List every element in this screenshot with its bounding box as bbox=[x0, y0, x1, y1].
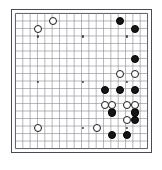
black-stone-r9[interactable] bbox=[131, 86, 139, 94]
black-stone-r5[interactable] bbox=[131, 116, 139, 124]
white-stone-d17[interactable] bbox=[34, 25, 42, 33]
white-stone-r7[interactable] bbox=[131, 101, 139, 109]
black-stone-n9[interactable] bbox=[101, 86, 109, 94]
white-stone-m4[interactable] bbox=[93, 124, 101, 132]
black-stone-r13[interactable] bbox=[131, 55, 139, 63]
white-stone-q5[interactable] bbox=[123, 116, 131, 124]
go-board[interactable] bbox=[11, 9, 152, 153]
hoshi-star-point bbox=[81, 35, 83, 37]
go-board-container bbox=[0, 0, 162, 170]
white-stone-f18[interactable] bbox=[49, 17, 57, 25]
black-stone-r17[interactable] bbox=[131, 25, 139, 33]
hoshi-star-point bbox=[37, 81, 39, 83]
black-stone-o3[interactable] bbox=[108, 131, 116, 139]
hoshi-star-point bbox=[81, 81, 83, 83]
white-stone-r11[interactable] bbox=[131, 70, 139, 78]
hoshi-star-point bbox=[37, 35, 39, 37]
hoshi-star-point bbox=[126, 81, 128, 83]
black-stone-p9[interactable] bbox=[116, 86, 124, 94]
black-stone-q3[interactable] bbox=[123, 131, 131, 139]
white-stone-o7[interactable] bbox=[108, 101, 116, 109]
go-stones-layer bbox=[12, 10, 151, 152]
white-stone-d4[interactable] bbox=[34, 124, 42, 132]
hoshi-star-point bbox=[81, 127, 83, 129]
black-stone-o6[interactable] bbox=[108, 108, 116, 116]
white-stone-p11[interactable] bbox=[116, 70, 124, 78]
black-stone-p18[interactable] bbox=[116, 17, 124, 25]
hoshi-star-point bbox=[126, 127, 128, 129]
hoshi-star-point bbox=[126, 35, 128, 37]
